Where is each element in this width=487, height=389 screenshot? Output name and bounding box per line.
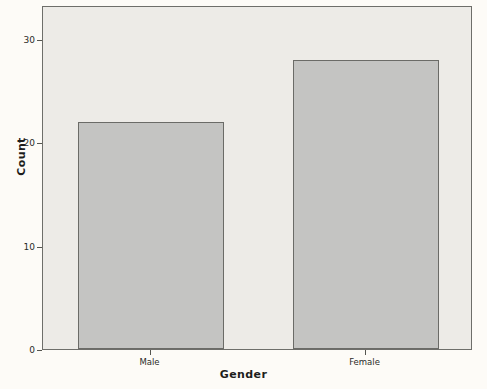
bar-male [78,122,224,349]
y-tick-label: 10 [24,242,35,252]
bar-chart: 0102030 Count MaleFemale Gender [0,0,487,389]
plot-area [42,6,472,350]
y-tick-mark [37,143,42,144]
y-tick-mark [37,40,42,41]
x-axis-title: Gender [0,368,487,381]
plot-inner [43,7,471,349]
y-axis: 0102030 [0,6,42,350]
x-tick-label-female: Female [349,357,380,367]
y-tick: 0 [0,350,42,351]
bar-female [293,60,439,349]
y-tick: 10 [0,247,42,248]
y-tick-label: 0 [29,345,35,355]
y-tick-mark [37,247,42,248]
y-axis-title: Count [15,137,28,176]
y-tick: 30 [0,40,42,41]
x-tick-mark [365,350,366,355]
x-tick-mark [150,350,151,355]
y-tick-label: 30 [24,35,35,45]
x-tick-label-male: Male [139,357,159,367]
